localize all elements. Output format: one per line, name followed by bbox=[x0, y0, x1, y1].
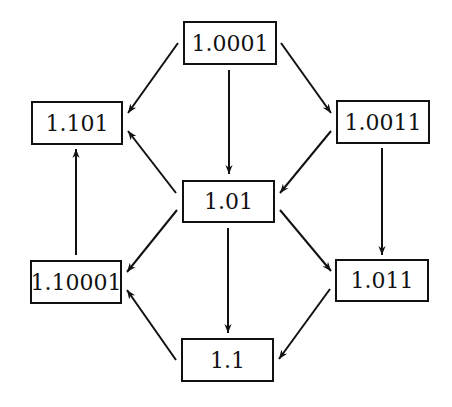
node-label: 1.101 bbox=[46, 111, 109, 136]
diagram-canvas: 1.0001 1.101 1.0011 1.01 1.10001 1.011 1… bbox=[0, 0, 452, 407]
arrow-1.011-to-1.1 bbox=[279, 289, 330, 359]
arrow-1.01-to-1.011 bbox=[280, 210, 331, 271]
arrow-1.1-to-1.10001 bbox=[127, 290, 176, 360]
node-1-10001: 1.10001 bbox=[30, 260, 122, 304]
node-label: 1.0011 bbox=[345, 110, 422, 135]
node-1-0001: 1.0001 bbox=[183, 21, 277, 65]
node-1-1: 1.1 bbox=[181, 338, 274, 382]
arrow-1.01-to-1.10001 bbox=[127, 210, 177, 272]
node-1-011: 1.011 bbox=[335, 259, 429, 302]
node-label: 1.0001 bbox=[192, 31, 269, 56]
node-label: 1.10001 bbox=[31, 270, 122, 295]
node-1-01: 1.01 bbox=[182, 180, 275, 223]
arrow-1.0001-to-1.0011 bbox=[281, 43, 331, 113]
node-label: 1.01 bbox=[204, 189, 253, 214]
arrow-1.0001-to-1.101 bbox=[128, 43, 178, 113]
node-1-0011: 1.0011 bbox=[336, 100, 430, 144]
node-label: 1.011 bbox=[351, 268, 414, 293]
node-1-101: 1.101 bbox=[31, 101, 123, 145]
arrow-1.01-to-1.101 bbox=[128, 131, 176, 193]
node-label: 1.1 bbox=[210, 348, 245, 373]
arrow-1.0011-to-1.01 bbox=[280, 131, 331, 193]
